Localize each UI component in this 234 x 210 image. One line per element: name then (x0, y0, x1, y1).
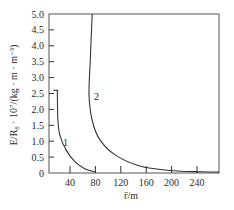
x-tick-label: 200 (164, 177, 179, 188)
chart: 00.51.01.52.02.53.03.54.04.55.0 40801201… (0, 0, 234, 210)
x-tick-label: 40 (65, 177, 75, 188)
plot-frame (49, 14, 219, 173)
y-tick-label: 0.5 (32, 152, 45, 163)
x-tick-label: 80 (90, 177, 100, 188)
y-tick-label: 1.5 (32, 120, 45, 131)
curves (53, 14, 219, 172)
y-tick-label: 1.0 (32, 136, 45, 147)
y-tick-label: 2.5 (32, 88, 45, 99)
y-tick-label: 3.5 (32, 56, 45, 67)
x-tick-label: 240 (190, 177, 205, 188)
y-axis-title: E/R₀ · 10⁷/(kg · m · m⁻³) (8, 45, 20, 146)
curve-2 (89, 14, 219, 172)
y-tick-label: 4.5 (32, 24, 45, 35)
x-tick-label: 160 (139, 177, 154, 188)
x-axis-title: r̄/m (124, 190, 138, 201)
y-tick-label: 4.0 (32, 40, 45, 51)
y-axis-ticks: 00.51.01.52.02.53.03.54.04.55.0 (32, 9, 55, 179)
y-tick-label: 2.0 (32, 104, 45, 115)
x-tick-label: 120 (113, 177, 128, 188)
y-tick-label: 3.0 (32, 72, 45, 83)
y-tick-label: 0 (39, 168, 44, 179)
curve-label-2: 2 (94, 91, 99, 102)
curve-label-1: 1 (63, 137, 68, 148)
y-tick-label: 5.0 (32, 9, 45, 20)
